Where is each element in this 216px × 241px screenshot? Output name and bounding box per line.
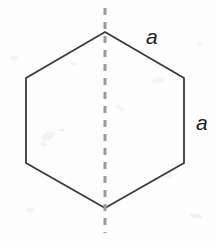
side-length-label-slant: a (146, 26, 158, 47)
hexagon-drawing (0, 0, 216, 241)
hexagon-figure: a a (0, 0, 216, 241)
side-length-label-vertical: a (196, 112, 208, 133)
